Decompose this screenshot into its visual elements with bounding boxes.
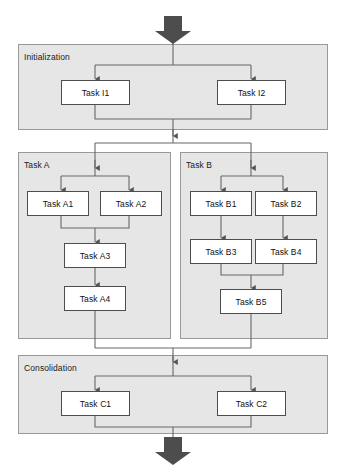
task-box-c1[interactable]: Task C1 <box>61 391 130 416</box>
task-box-a1[interactable]: Task A1 <box>27 191 89 216</box>
group-label-consolidation: Consolidation <box>24 364 77 373</box>
task-box-b5[interactable]: Task B5 <box>220 289 282 314</box>
task-box-b2[interactable]: Task B2 <box>255 191 317 216</box>
exit-block-arrow-icon <box>155 437 191 465</box>
task-box-a3[interactable]: Task A3 <box>64 243 126 268</box>
task-box-a4[interactable]: Task A4 <box>64 286 126 311</box>
group-label-task-b: Task B <box>186 161 212 170</box>
task-box-c2[interactable]: Task C2 <box>217 391 286 416</box>
flowchart-connectors-layer <box>0 0 346 468</box>
entry-block-arrow-icon <box>155 16 191 44</box>
group-label-task-a: Task A <box>24 161 50 170</box>
task-box-a2[interactable]: Task A2 <box>100 191 162 216</box>
task-box-i1[interactable]: Task I1 <box>61 80 130 105</box>
task-box-b4[interactable]: Task B4 <box>255 239 317 264</box>
task-box-b1[interactable]: Task B1 <box>190 191 252 216</box>
task-box-b3[interactable]: Task B3 <box>190 239 252 264</box>
task-box-i2[interactable]: Task I2 <box>217 80 286 105</box>
group-label-initialization: Initialization <box>24 53 70 62</box>
flowchart-canvas: Initialization Task A Task B Consolidati… <box>0 0 346 468</box>
